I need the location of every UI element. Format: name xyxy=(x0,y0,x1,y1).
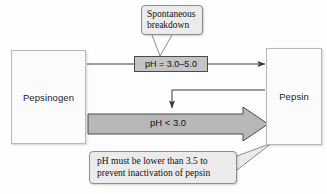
pepsin-activation-diagram: Pepsinogen Pepsin pH = 3.0–5.0 pH < 3.0 … xyxy=(0,0,327,194)
node-pepsinogen-label: Pepsinogen xyxy=(23,92,74,103)
block-arrow-label-text: pH < 3.0 xyxy=(150,117,186,128)
ph-range-chip: pH = 3.0–5.0 xyxy=(134,56,208,72)
node-pepsin-label: Pepsin xyxy=(279,91,309,102)
ph-range-chip-label: pH = 3.0–5.0 xyxy=(145,59,197,69)
callout-ph-rule-line-2: prevent inactivation of pepsin xyxy=(97,168,236,180)
callout-tail-ph-rule xyxy=(237,143,272,170)
callout-ph-rule-line-1: pH must be lower than 3.5 to xyxy=(97,156,236,168)
callout-ph-rule: pH must be lower than 3.5 to prevent ina… xyxy=(89,151,237,184)
node-pepsin: Pepsin xyxy=(266,48,322,145)
callout-spontaneous-line-1: Spontaneous xyxy=(147,9,202,21)
block-arrow-label: pH < 3.0 xyxy=(88,117,248,128)
connector-pepsin-feedback xyxy=(172,90,265,108)
callout-tail-spontaneous xyxy=(152,35,172,56)
callout-spontaneous-breakdown: Spontaneous breakdown xyxy=(141,5,203,35)
callout-spontaneous-line-2: breakdown xyxy=(147,20,202,32)
node-pepsinogen: Pepsinogen xyxy=(11,50,86,144)
